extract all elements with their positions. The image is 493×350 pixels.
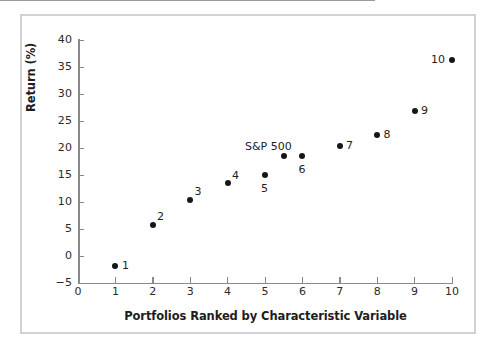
- data-point-9: [412, 108, 418, 114]
- y-tick-label-25: 25: [58, 114, 72, 127]
- data-point-label-3: 3: [195, 185, 202, 198]
- x-tick-label-3: 3: [175, 285, 205, 298]
- x-tick-label-8: 8: [362, 285, 392, 298]
- data-point-label-7: 7: [346, 139, 353, 152]
- x-tick-label-4: 4: [213, 285, 243, 298]
- data-point-1: [112, 263, 118, 269]
- data-point-7: [337, 143, 343, 149]
- scatter-plot: 40 35 30 25 20 15 10 5 0 −5 0 1 2 3 4 5 …: [0, 0, 493, 350]
- data-point-6: [299, 153, 305, 159]
- y-axis-line: [78, 39, 80, 284]
- x-axis-title: Portfolios Ranked by Characteristic Vari…: [78, 309, 453, 323]
- x-tick-1: [115, 277, 116, 283]
- y-tick-minus5: [78, 283, 84, 284]
- figure: 40 35 30 25 20 15 10 5 0 −5 0 1 2 3 4 5 …: [0, 0, 493, 350]
- x-tick-10: [452, 277, 453, 283]
- y-axis-title: Return (%): [24, 43, 38, 112]
- y-tick-label-40: 40: [58, 33, 72, 46]
- y-tick-40: [78, 40, 84, 41]
- data-point-label-2: 2: [157, 210, 164, 223]
- x-tick-3: [190, 277, 191, 283]
- data-point-10: [449, 57, 455, 63]
- x-tick-label-9: 9: [400, 285, 430, 298]
- x-tick-4: [227, 277, 228, 283]
- x-tick-label-6: 6: [287, 285, 317, 298]
- data-point-label-6: 6: [299, 163, 306, 176]
- zero-reference-line: [0, 0, 375, 1]
- y-tick-label-15: 15: [58, 168, 72, 181]
- data-point-3: [187, 197, 193, 203]
- x-tick-label-1: 1: [100, 285, 130, 298]
- x-axis-line: [78, 283, 453, 285]
- x-tick-8: [377, 277, 378, 283]
- y-tick-20: [78, 148, 84, 149]
- x-tick-2: [152, 277, 153, 283]
- y-tick-30: [78, 94, 84, 95]
- data-point-label-5: 5: [261, 182, 268, 195]
- x-tick-label-0: 0: [63, 285, 93, 298]
- y-tick-35: [78, 67, 84, 68]
- x-tick-5: [265, 277, 266, 283]
- data-point-8: [374, 132, 380, 138]
- data-point-sp500: [281, 153, 287, 159]
- data-point-label-1: 1: [122, 259, 129, 272]
- y-tick-label-10: 10: [58, 195, 72, 208]
- data-point-label-4: 4: [232, 169, 239, 182]
- y-tick-label-35: 35: [58, 60, 72, 73]
- y-tick-label-30: 30: [58, 87, 72, 100]
- x-tick-label-7: 7: [325, 285, 355, 298]
- y-tick-label-5: 5: [65, 222, 72, 235]
- x-tick-label-2: 2: [138, 285, 168, 298]
- data-point-2: [150, 222, 156, 228]
- data-point-label-10: 10: [431, 53, 445, 66]
- x-tick-6: [302, 277, 303, 283]
- sp500-series-label: S&P 500: [245, 140, 292, 153]
- y-tick-5: [78, 229, 84, 230]
- y-tick-label-0: 0: [65, 249, 72, 262]
- data-point-label-8: 8: [384, 128, 391, 141]
- x-tick-7: [339, 277, 340, 283]
- y-tick-25: [78, 121, 84, 122]
- data-point-4: [225, 180, 231, 186]
- y-tick-15: [78, 175, 84, 176]
- data-point-5: [262, 172, 268, 178]
- x-tick-label-10: 10: [437, 285, 467, 298]
- data-point-label-9: 9: [421, 104, 428, 117]
- x-tick-label-5: 5: [250, 285, 280, 298]
- x-tick-9: [414, 277, 415, 283]
- y-tick-label-20: 20: [58, 141, 72, 154]
- y-tick-0: [78, 256, 84, 257]
- y-tick-10: [78, 202, 84, 203]
- x-tick-0: [78, 277, 79, 283]
